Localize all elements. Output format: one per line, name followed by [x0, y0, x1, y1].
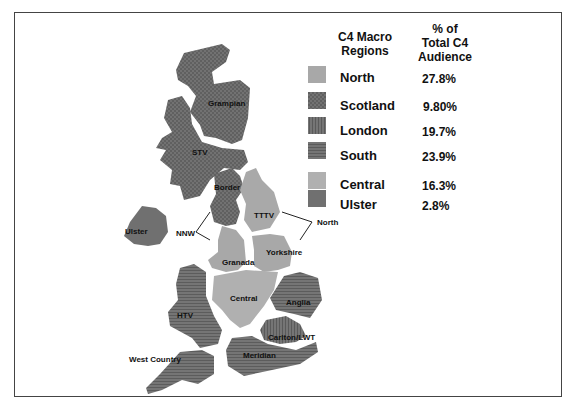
legend-header-regions: C4 Macro Regions — [330, 30, 400, 58]
label-west-country: West Country — [129, 355, 181, 364]
label-carlton-lwt: Carlton/LWT — [268, 333, 315, 342]
legend-row-north: North 27.8% — [292, 70, 532, 90]
legend-row-scotland: Scotland 9.80% — [292, 98, 532, 118]
legend-value: 23.9% — [422, 150, 456, 164]
label-anglia: Anglia — [286, 298, 310, 307]
legend-name: South — [340, 148, 377, 163]
legend-value: 19.7% — [422, 125, 456, 139]
legend-header-pct-line2: Total C4 — [410, 36, 480, 50]
legend-value: 27.8% — [422, 72, 456, 86]
legend-header-pct-line3: Audience — [410, 50, 480, 64]
label-granada: Granada — [222, 258, 254, 267]
legend-name: North — [340, 70, 375, 85]
label-central: Central — [230, 294, 258, 303]
legend-value: 2.8% — [422, 199, 449, 213]
legend-header-regions-line2: Regions — [330, 44, 400, 58]
legend-row-ulster: Ulster 2.8% — [292, 197, 532, 217]
label-stv: STV — [192, 148, 208, 157]
label-ulster: Ulster — [125, 227, 148, 236]
legend-value: 9.80% — [423, 100, 457, 114]
label-border: Border — [214, 183, 240, 192]
label-north: North — [317, 218, 338, 227]
label-htv: HTV — [177, 311, 193, 320]
legend-row-london: London 19.7% — [292, 123, 532, 143]
legend-header-percent: % of Total C4 Audience — [410, 22, 480, 64]
legend-header-regions-line1: C4 Macro — [330, 30, 400, 44]
label-tttv: TTTV — [254, 211, 274, 220]
label-grampian: Grampian — [208, 99, 245, 108]
legend-header-pct-line1: % of — [410, 22, 480, 36]
legend-row-central: Central 16.3% — [292, 177, 532, 197]
label-meridian: Meridian — [243, 351, 276, 360]
legend-name: Scotland — [340, 98, 395, 113]
legend-value: 16.3% — [422, 179, 456, 193]
label-yorkshire: Yorkshire — [266, 248, 302, 257]
legend-name: Ulster — [340, 197, 377, 212]
legend-name: London — [340, 123, 388, 138]
legend-row-south: South 23.9% — [292, 148, 532, 168]
label-nnw: NNW — [176, 229, 195, 238]
legend-name: Central — [340, 177, 385, 192]
